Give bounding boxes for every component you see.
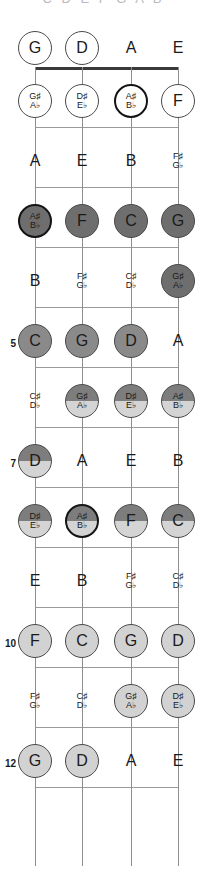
note-flat-label: E♭: [126, 401, 136, 410]
note-fret2-string-d-e: E: [65, 144, 99, 178]
note-fret3-string-d-f: F: [65, 204, 99, 238]
fret-line-8: [35, 547, 179, 548]
note-label: E: [126, 453, 137, 469]
note-label: E: [30, 573, 41, 589]
note-flat-label: D♭: [173, 581, 184, 590]
note-label: E: [77, 153, 88, 169]
note-fret11-string-e-dsharp-eflat: D♯E♭: [161, 684, 195, 718]
note-fret5-string-d-g: G: [65, 324, 99, 358]
note-fret11-string-a-gsharp-aflat: G♯A♭: [114, 684, 148, 718]
note-flat-label: A♭: [126, 701, 136, 710]
note-fret12-string-g-g: G: [18, 744, 52, 778]
note-label: F: [126, 513, 136, 529]
note-fret10-string-e-d: D: [161, 624, 195, 658]
fret-line-9: [35, 607, 179, 608]
note-fret9-string-e-csharp-dflat: C♯D♭: [161, 564, 195, 598]
note-fret6-string-a-dsharp-eflat: D♯E♭: [114, 384, 148, 418]
fret-number-12: 12: [0, 758, 16, 769]
note-label: C: [29, 333, 41, 349]
note-label: A: [77, 453, 88, 469]
note-flat-label: E♭: [173, 701, 183, 710]
note-label: G: [76, 333, 88, 349]
fret-line-3: [35, 247, 179, 248]
note-fret11-string-d-csharp-dflat: C♯D♭: [65, 684, 99, 718]
fret-line-11: [35, 727, 179, 728]
note-label: F: [30, 633, 40, 649]
fret-line-7: [35, 487, 179, 488]
note-flat-label: E♭: [77, 101, 87, 110]
note-flat-label: D♭: [126, 281, 137, 290]
note-fret0-string-a-a: A: [114, 31, 148, 65]
note-fret0-string-e-e: E: [161, 31, 195, 65]
note-label: C: [172, 513, 184, 529]
note-label: G: [29, 753, 41, 769]
fret-line-12: [35, 787, 179, 788]
note-fret7-string-a-e: E: [114, 444, 148, 478]
fret-line-4: [35, 307, 179, 308]
note-fret10-string-d-c: C: [65, 624, 99, 658]
note-fret7-string-g-d: D: [18, 444, 52, 478]
nut: [35, 67, 179, 70]
note-label: D: [76, 753, 88, 769]
note-flat-label: D♭: [30, 401, 41, 410]
fret-line-2: [35, 187, 179, 188]
note-label: E: [173, 753, 184, 769]
note-label: F: [77, 213, 87, 229]
note-flat-label: G♭: [76, 281, 87, 290]
note-label: C: [76, 633, 88, 649]
note-fret3-string-e-g: G: [161, 204, 195, 238]
note-label: A: [126, 753, 137, 769]
note-label: D: [172, 633, 184, 649]
note-fret0-string-d-d: D: [65, 31, 99, 65]
note-label: D: [76, 40, 88, 56]
note-fret11-string-g-fsharp-gflat: F♯G♭: [18, 684, 52, 718]
note-fret12-string-e-e: E: [161, 744, 195, 778]
note-fret3-string-g-asharp-bflat: A♯B♭: [18, 204, 52, 238]
note-label: B: [77, 573, 88, 589]
note-fret1-string-g-gsharp-aflat: G♯A♭: [18, 84, 52, 118]
note-fret8-string-e-c: C: [161, 504, 195, 538]
note-fret4-string-d-fsharp-gflat: F♯G♭: [65, 264, 99, 298]
note-fret8-string-g-dsharp-eflat: D♯E♭: [18, 504, 52, 538]
note-label: E: [173, 40, 184, 56]
note-fret10-string-a-g: G: [114, 624, 148, 658]
note-flat-label: G♭: [29, 701, 40, 710]
fret-line-10: [35, 667, 179, 668]
note-fret5-string-e-a: A: [161, 324, 195, 358]
fret-line-5: [35, 367, 179, 368]
note-flat-label: D♭: [77, 701, 88, 710]
note-fret4-string-g-b: B: [18, 264, 52, 298]
note-fret9-string-g-e: E: [18, 564, 52, 598]
note-flat-label: G♭: [125, 581, 136, 590]
note-label: F: [173, 93, 183, 109]
note-fret12-string-a-a: A: [114, 744, 148, 778]
fret-number-5: 5: [0, 338, 16, 349]
note-flat-label: B♭: [77, 521, 87, 530]
note-flat-label: B♭: [173, 401, 183, 410]
note-fret2-string-e-fsharp-gflat: F♯G♭: [161, 144, 195, 178]
note-label: B: [173, 453, 184, 469]
note-flat-label: B♭: [126, 101, 136, 110]
note-label: G: [29, 40, 41, 56]
note-label: G: [125, 633, 137, 649]
note-fret8-string-a-f: F: [114, 504, 148, 538]
note-label: C: [125, 213, 137, 229]
note-fret2-string-g-a: A: [18, 144, 52, 178]
note-label: B: [30, 273, 41, 289]
note-flat-label: A♭: [77, 401, 87, 410]
note-label: A: [30, 153, 41, 169]
note-label: D: [125, 333, 137, 349]
note-label: D: [29, 453, 41, 469]
note-flat-label: A♭: [173, 281, 183, 290]
fretboard-diagram: C D E F G A B 571012 GDAEG♯A♭D♯E♭A♯B♭FAE…: [0, 0, 207, 888]
note-fret6-string-g-csharp-dflat: C♯D♭: [18, 384, 52, 418]
fret-number-10: 10: [0, 638, 16, 649]
note-label: A: [173, 333, 184, 349]
note-fret0-string-g-g: G: [18, 31, 52, 65]
note-fret10-string-g-f: F: [18, 624, 52, 658]
note-fret12-string-d-d: D: [65, 744, 99, 778]
note-fret4-string-e-gsharp-aflat: G♯A♭: [161, 264, 195, 298]
note-fret2-string-a-b: B: [114, 144, 148, 178]
note-label: B: [126, 153, 137, 169]
note-fret5-string-a-d: D: [114, 324, 148, 358]
